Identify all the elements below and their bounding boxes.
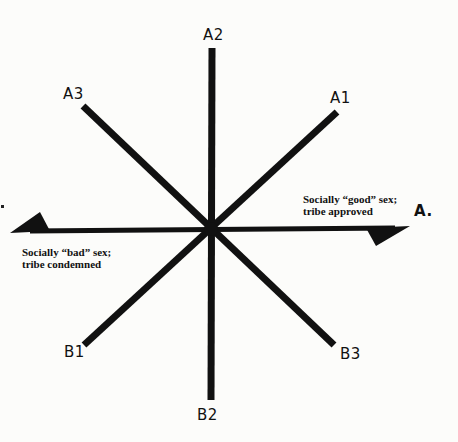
label-a3: A3 [63, 87, 84, 102]
caption-bad: Socially “bad” sex; tribe condemned [22, 246, 111, 270]
label-a-dot: A. [414, 204, 433, 219]
caption-good-line2: tribe approved [303, 205, 397, 217]
label-a2: A2 [203, 28, 224, 43]
caption-bad-line2: tribe condemned [22, 258, 111, 270]
center-hub [204, 222, 218, 236]
ink-speck [1, 205, 4, 208]
diagram-canvas: A2 A3 A1 B1 B3 B2 A. Socially “good” sex… [0, 0, 458, 442]
label-b3: B3 [340, 347, 361, 362]
caption-bad-line1: Socially “bad” sex; [22, 246, 111, 258]
left-arrowhead-icon [10, 212, 50, 233]
label-b2: B2 [197, 408, 218, 423]
label-b1: B1 [64, 345, 85, 360]
caption-good: Socially “good” sex; tribe approved [303, 193, 397, 217]
label-a1: A1 [330, 91, 351, 106]
right-arrowhead-icon [366, 226, 410, 246]
caption-good-line1: Socially “good” sex; [303, 193, 397, 205]
radial-axes-drawing [0, 0, 458, 442]
